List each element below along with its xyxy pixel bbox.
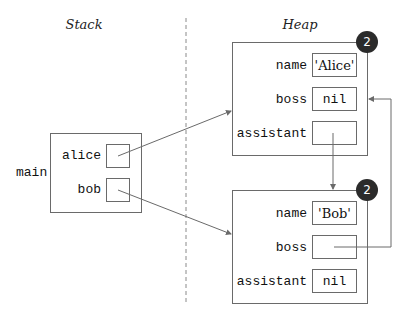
arrow-alice-to-heap	[118, 111, 231, 156]
bob-refcount-badge: 2	[356, 179, 378, 201]
arrow-bob-boss-to-alice	[334, 99, 391, 247]
arrow-bob-to-heap	[118, 190, 231, 234]
alice-refcount-badge: 2	[356, 31, 378, 53]
reference-arrows	[0, 0, 408, 320]
